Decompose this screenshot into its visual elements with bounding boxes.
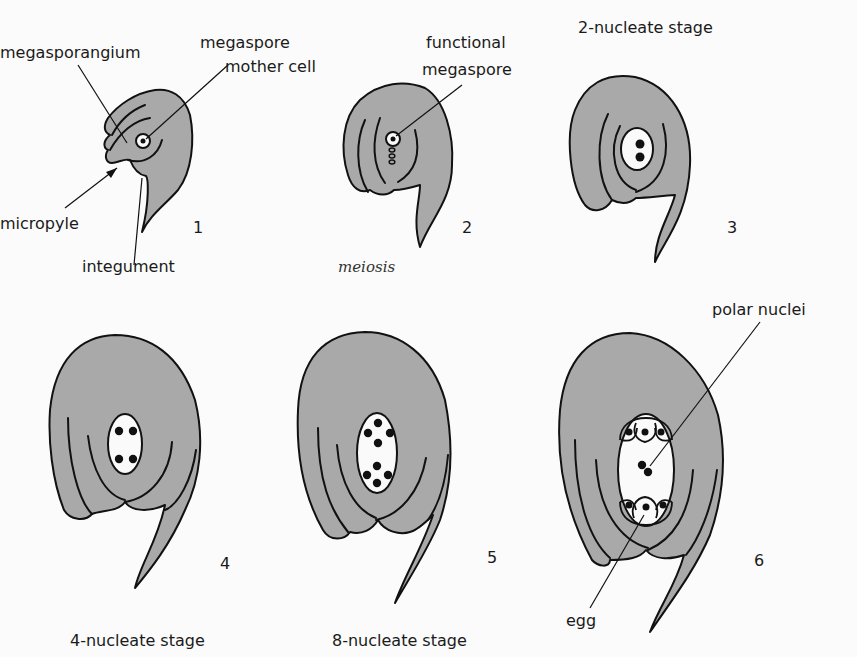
caption-4-nucleate-stage: 4-nucleate stage (70, 631, 205, 650)
panel-3-ovule: 2-nucleate stage 3 (570, 18, 737, 262)
label-megaspore: megaspore (200, 33, 290, 52)
diagram-canvas: megasporangium megaspore mother cell mic… (0, 0, 857, 657)
panel-number-4: 4 (220, 554, 230, 573)
label-mother-cell: mother cell (225, 57, 316, 76)
panel-3-title: 2-nucleate stage (578, 18, 713, 37)
panel-number-3: 3 (727, 218, 737, 237)
panel-number-2: 2 (462, 218, 472, 237)
caption-8-nucleate-stage: 8-nucleate stage (332, 631, 467, 650)
panel-2-ovule: functional megaspore 2 meiosis (338, 33, 512, 276)
panel-number-1: 1 (193, 218, 203, 237)
panel-5-ovule: 5 8-nucleate stage (298, 332, 498, 650)
label-polar-nuclei: polar nuclei (712, 300, 806, 319)
label-functional-megaspore: megaspore (422, 60, 512, 79)
label-egg: egg (566, 611, 596, 630)
panel-number-6: 6 (754, 551, 764, 570)
caption-meiosis: meiosis (338, 258, 395, 276)
panel-1-ovule: megasporangium megaspore mother cell mic… (0, 33, 316, 276)
embryo-sac-development-figure: megasporangium megaspore mother cell mic… (0, 0, 857, 657)
label-integument: integument (82, 257, 175, 276)
panel-4-ovule: 4 4-nucleate stage (50, 335, 231, 650)
panel-number-5: 5 (487, 548, 497, 567)
panel-6-ovule: polar nuclei egg 6 (559, 300, 806, 632)
label-micropyle: micropyle (0, 214, 79, 233)
label-megasporangium: megasporangium (0, 43, 141, 62)
label-functional: functional (426, 33, 506, 52)
